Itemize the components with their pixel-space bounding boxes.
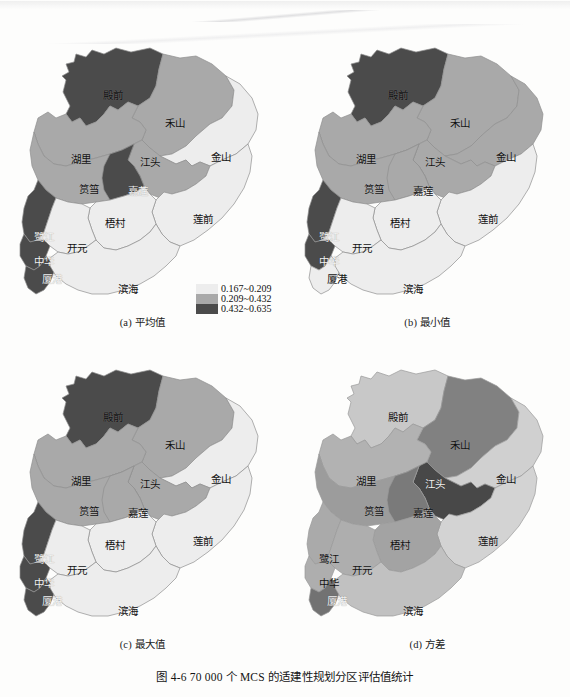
subplot-caption-b: (b) 最小值 (285, 314, 570, 329)
legend-panel-a: 0.167~0.209 0.209~0.432 0.432~0.635 (196, 284, 271, 314)
subplot-caption-c: (c) 最大值 (0, 636, 285, 651)
map-panel-c: 殿前 禾山 金山 湖里 江头 筼筜 嘉莲 莲前 梧村 鹭江 开元 中华 厦港 滨… (0, 336, 285, 652)
subplot-caption-a: (a) 平均值 (0, 314, 285, 329)
legend-swatch (196, 304, 218, 314)
figure-4-6: 殿前 禾山 金山 湖里 江头 筼筜 嘉莲 莲前 梧村 鹭江 开元 中华 厦港 滨… (0, 0, 570, 697)
choropleth-map-b (285, 14, 570, 314)
legend-swatch (196, 294, 218, 304)
legend-label: 0.432~0.635 (221, 304, 271, 314)
choropleth-map-a (0, 14, 285, 314)
legend-row: 0.432~0.635 (196, 304, 271, 314)
map-panel-b: 殿前 禾山 金山 湖里 江头 筼筜 嘉莲 莲前 梧村 鹭江 开元 中华 厦港 滨… (285, 14, 570, 330)
legend-swatch (196, 284, 218, 294)
map-panel-d: 殿前 禾山 金山 湖里 江头 筼筜 嘉莲 莲前 梧村 鹭江 开元 中华 厦港 滨… (285, 336, 570, 652)
choropleth-map-c (0, 336, 285, 636)
choropleth-map-d (285, 336, 570, 636)
figure-caption: 图 4-6 70 000 个 MCS 的适建性规划分区评估值统计 (0, 668, 570, 684)
map-panel-a: 殿前 禾山 金山 湖里 江头 筼筜 嘉莲 莲前 梧村 鹭江 开元 中华 厦港 滨… (0, 14, 285, 330)
subplot-caption-d: (d) 方差 (285, 636, 570, 651)
